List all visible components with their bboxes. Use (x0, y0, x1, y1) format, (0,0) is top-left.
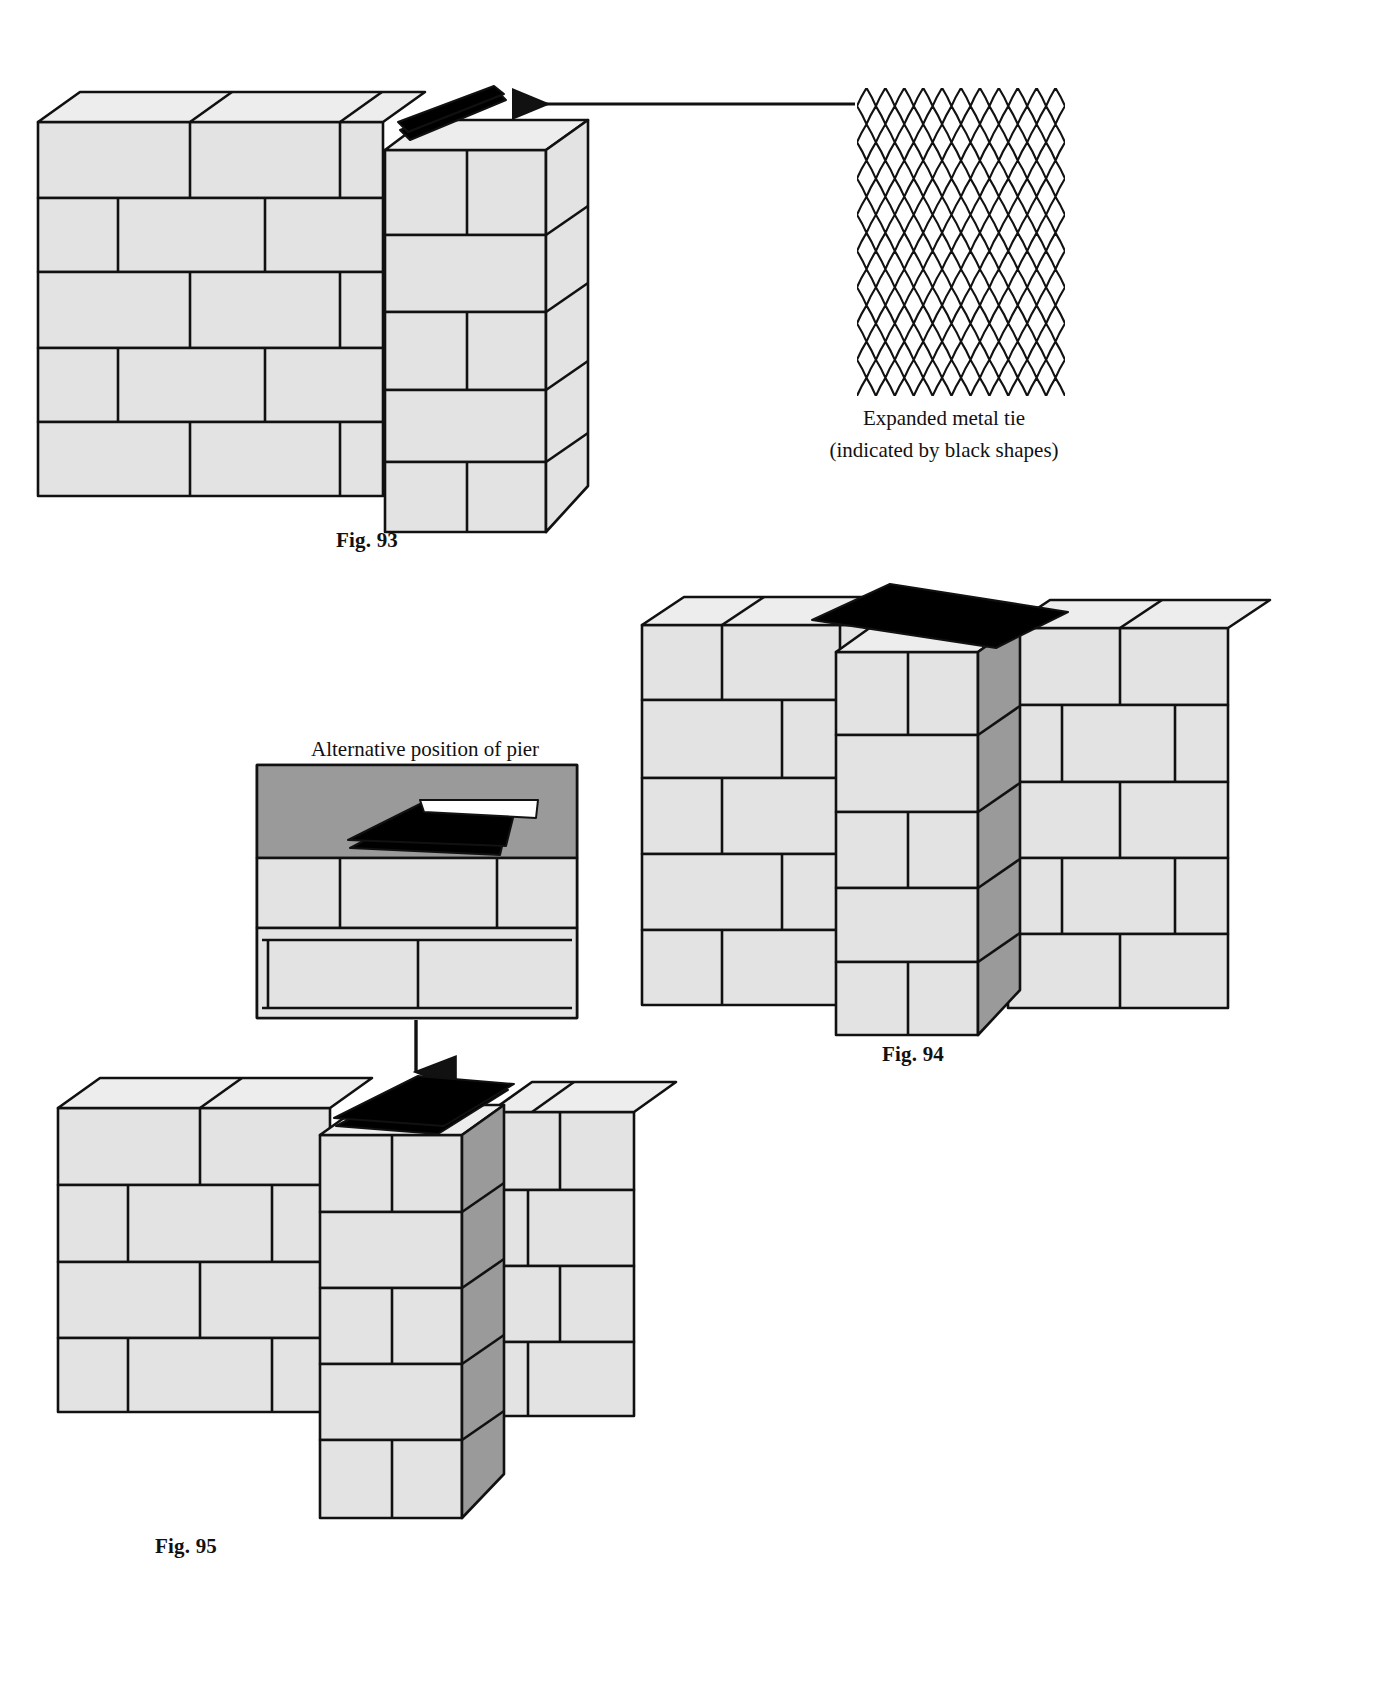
fig93-pier (385, 120, 588, 532)
figure-94-drawing (642, 584, 1270, 1035)
fig94-wall-right (1008, 628, 1228, 1008)
illustration-page: Expanded metal tie (indicated by black s… (0, 0, 1379, 1683)
figure-caption-93: Fig. 93 (336, 528, 398, 553)
fig95-wall-left (58, 1108, 330, 1412)
alt-position-block (257, 765, 577, 1018)
mesh-caption-line2: (indicated by black shapes) (808, 438, 1080, 463)
figure-caption-95: Fig. 95 (155, 1534, 217, 1559)
alternative-position-label: Alternative position of pier (311, 737, 539, 762)
fig95-wall-right-top (490, 1082, 676, 1112)
fig94-pier (836, 622, 1020, 1035)
mesh-caption-line1: Expanded metal tie (839, 406, 1049, 431)
figure-caption-94: Fig. 94 (882, 1042, 944, 1067)
fig95-pier (320, 1105, 504, 1518)
figure-93-drawing (38, 86, 588, 532)
figure-95-drawing (58, 1076, 676, 1518)
fig95-wall-right (490, 1112, 634, 1416)
expanded-metal-mesh (848, 88, 1075, 396)
fig95-wall-left-top (58, 1078, 372, 1108)
fig93-wall-top (38, 92, 425, 122)
fig93-wall-front (38, 122, 383, 496)
masonry-figures-svg (0, 0, 1379, 1683)
